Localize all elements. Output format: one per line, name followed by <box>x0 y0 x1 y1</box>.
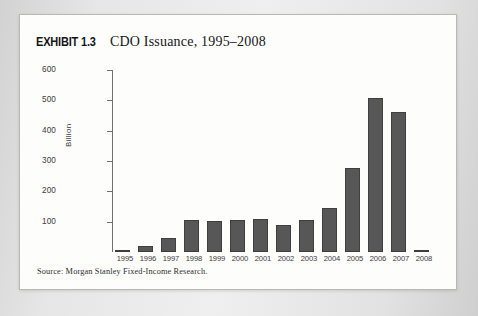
bar-group: 1999 <box>205 70 228 252</box>
bar-group: 2004 <box>320 70 343 252</box>
x-axis-tick-label: 2008 <box>410 254 438 263</box>
bar-group: 1997 <box>159 70 182 252</box>
bar <box>253 219 268 252</box>
bar-group: 2008 <box>412 70 435 252</box>
bar-group: 2007 <box>389 70 412 252</box>
bar-group: 1995 <box>113 70 136 252</box>
bar <box>207 221 222 252</box>
exhibit-number-label: EXHIBIT 1.3 <box>36 35 96 49</box>
bar-group: 1998 <box>182 70 205 252</box>
bar-group: 2003 <box>297 70 320 252</box>
bar <box>230 220 245 252</box>
y-axis-tick-label: 200 <box>0 186 56 195</box>
bar <box>322 208 337 252</box>
exhibit-frame: EXHIBIT 1.3CDO Issuance, 1995–2008 Billi… <box>19 14 457 290</box>
bar <box>299 220 314 252</box>
bar-group: 2005 <box>343 70 366 252</box>
bar <box>368 98 383 252</box>
bar <box>115 250 130 252</box>
y-axis-tick <box>107 131 112 132</box>
y-axis-tick-label: 300 <box>0 156 56 165</box>
bar <box>391 112 406 252</box>
bar-group: 1996 <box>136 70 159 252</box>
bar-series: 1995199619971998199920002001200220032004… <box>113 70 435 252</box>
bar <box>276 225 291 252</box>
bar <box>414 250 429 252</box>
bar-group: 2000 <box>228 70 251 252</box>
bar-group: 2002 <box>274 70 297 252</box>
bar <box>345 168 360 252</box>
bar-group: 2001 <box>251 70 274 252</box>
source-note: Source: Morgan Stanley Fixed-Income Rese… <box>37 267 207 276</box>
y-axis-tick <box>107 222 112 223</box>
bar-chart: Billion 100200300400500600 1995199619971… <box>60 61 438 259</box>
bar <box>138 246 153 252</box>
y-axis-tick <box>107 191 112 192</box>
bar <box>184 220 199 252</box>
bar-group: 2006 <box>366 70 389 252</box>
y-axis-tick <box>107 161 112 162</box>
y-axis-label: Billion <box>64 124 73 147</box>
exhibit-title-text: CDO Issuance, 1995–2008 <box>110 34 266 49</box>
exhibit-title: EXHIBIT 1.3CDO Issuance, 1995–2008 <box>36 32 266 50</box>
y-axis-tick-label: 400 <box>0 126 56 135</box>
y-axis-tick <box>107 100 112 101</box>
y-axis-tick-label: 100 <box>0 217 56 226</box>
y-axis-tick-label: 600 <box>0 65 56 74</box>
y-axis-tick-label: 500 <box>0 95 56 104</box>
y-axis-tick <box>107 70 112 71</box>
bar <box>161 238 176 252</box>
